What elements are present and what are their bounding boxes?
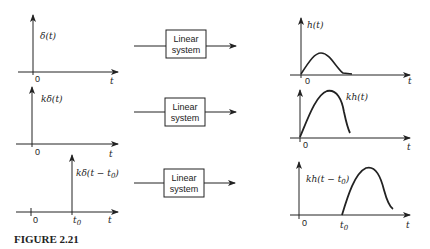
system-label-1: Linear: [173, 34, 198, 44]
system-label-2: system: [171, 113, 200, 123]
row1-input-plot: δ(t) 0 t: [18, 15, 118, 86]
axis-label: t: [407, 142, 411, 152]
system-label-2: system: [172, 45, 201, 55]
row2-system: Linear system: [134, 98, 236, 126]
row1-output-plot: h(t) 0 t: [290, 18, 412, 86]
row2-output-plot: kh(t) 0 t: [290, 90, 411, 152]
axis-label: t: [110, 76, 114, 86]
axis-label: t: [108, 215, 112, 225]
input-label: kδ(t − t0): [76, 168, 119, 180]
shifted-response-curve: [342, 168, 393, 215]
row3-output-plot: kh(t − t0) 0 t0 t: [290, 162, 410, 232]
origin-label: 0: [305, 76, 310, 86]
origin-label: 0: [302, 218, 307, 228]
origin-label: 0: [35, 147, 40, 157]
row1-system: Linear system: [134, 30, 236, 58]
system-label-1: Linear: [172, 102, 197, 112]
impulse-response-curve: [301, 53, 352, 74]
shift-label: t0: [73, 215, 82, 227]
axis-label: t: [109, 149, 113, 159]
row3-input-plot: kδ(t − t0) 0 t0 t: [16, 155, 119, 227]
system-label-1: Linear: [171, 173, 196, 183]
axis-label: t: [408, 76, 412, 86]
shift-label: t0: [340, 220, 349, 232]
axis-label: t: [406, 220, 410, 230]
origin-label: 0: [35, 74, 40, 84]
row3-system: Linear system: [134, 169, 235, 197]
figure-caption: FIGURE 2.21: [14, 233, 79, 245]
system-label-2: system: [170, 184, 199, 194]
output-label: kh(t): [346, 92, 368, 102]
origin-label: 0: [303, 140, 308, 150]
input-label: δ(t): [40, 31, 57, 41]
input-label: kδ(t): [41, 94, 63, 104]
figure-canvas: δ(t) 0 t Linear system h(t) 0 t kδ(t) 0 …: [0, 0, 430, 249]
output-label: h(t): [307, 20, 324, 30]
row2-input-plot: kδ(t) 0 t: [16, 87, 118, 159]
scaled-response-curve: [300, 91, 350, 137]
origin-label: 0: [33, 215, 38, 225]
output-label: kh(t − t0): [306, 174, 350, 186]
